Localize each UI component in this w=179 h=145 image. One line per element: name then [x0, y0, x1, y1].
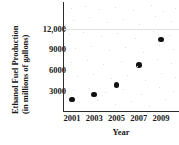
scan-noise-dot — [87, 60, 88, 61]
scan-noise-dot — [165, 99, 166, 100]
scan-noise-dot — [133, 10, 134, 11]
x-tick-label: 2001 — [64, 114, 81, 123]
scan-noise-dot — [125, 47, 126, 48]
scan-noise-dot — [101, 36, 102, 37]
scan-noise-dot — [109, 50, 110, 51]
scan-noise-dot — [75, 48, 76, 49]
scan-noise-dot — [89, 17, 90, 18]
scan-noise-dot — [69, 34, 70, 35]
scan-noise-dot — [89, 88, 90, 89]
scan-noise-dot — [73, 90, 74, 91]
scan-noise-dot — [121, 61, 122, 62]
scan-noise-dot — [173, 91, 174, 92]
scan-noise-dot — [149, 106, 150, 107]
scan-noise-dot — [175, 8, 176, 9]
scan-noise-dot — [137, 66, 138, 67]
x-tick-label: 2005 — [108, 114, 125, 123]
scan-noise-dot — [145, 80, 146, 81]
scan-noise-dot — [123, 89, 124, 90]
scan-noise-dot — [169, 35, 170, 36]
scan-noise-dot — [103, 64, 104, 65]
y-axis-title: Ethanol Fuel Production (in millions of … — [0, 0, 28, 120]
scan-noise-dot — [153, 31, 154, 32]
x-axis-line — [63, 111, 179, 112]
x-axis-tick-labels: 20012003200520072009 — [58, 114, 179, 126]
scan-noise-dot — [141, 94, 142, 95]
scan-noise-dot — [71, 8, 72, 9]
scan-noise-dot — [171, 21, 172, 22]
scan-noise-dot — [171, 63, 172, 64]
scan-noise-dot — [71, 62, 72, 63]
scan-noise-dot — [157, 59, 158, 60]
scan-noise-dot — [155, 16, 156, 17]
scan-noise-dot — [83, 32, 84, 33]
scan-noise-dot — [163, 11, 164, 12]
scan-noise-dot — [135, 38, 136, 39]
scan-noise-dot — [175, 77, 176, 78]
data-point — [114, 82, 120, 88]
scan-noise-dot — [79, 102, 80, 103]
scan-noise-dot — [91, 46, 92, 47]
scan-noise-dot — [131, 101, 132, 102]
scan-noise-dot — [85, 6, 86, 7]
ethanol-fuel-production-scatter-chart: Ethanol Fuel Production (in millions of … — [0, 0, 179, 145]
plot-area — [63, 2, 179, 112]
data-point — [69, 97, 75, 103]
scan-noise-dot — [99, 9, 100, 10]
scan-noise-dot — [159, 87, 160, 88]
scan-noise-dot — [127, 75, 128, 76]
scan-noise-dot — [105, 92, 106, 93]
y-axis-line — [63, 2, 64, 112]
scan-noise-dot — [173, 49, 174, 50]
data-point — [91, 92, 97, 98]
scan-noise-dot — [107, 22, 108, 23]
x-tick-label: 2007 — [130, 114, 147, 123]
scan-noise-dot — [77, 76, 78, 77]
x-axis-title: Year — [63, 128, 179, 137]
scan-noise-dot — [123, 19, 124, 20]
scan-noise-dot — [151, 5, 152, 6]
scan-noise-dot — [115, 104, 116, 105]
scan-noise-dot — [161, 73, 162, 74]
scan-noise-dot — [115, 7, 116, 8]
scan-noise-dot — [73, 20, 74, 21]
scan-noise-dot — [143, 52, 144, 53]
x-tick-label: 2009 — [153, 114, 170, 123]
scan-artifact-line — [64, 29, 179, 30]
x-tick-label: 2003 — [86, 114, 103, 123]
scan-noise-dot — [111, 78, 112, 79]
scan-noise-dot — [139, 24, 140, 25]
scan-noise-dot — [93, 74, 94, 75]
scan-noise-dot — [117, 33, 118, 34]
scan-noise-dot — [159, 45, 160, 46]
y-axis-title-line-2: (in millions of gallons) — [21, 35, 30, 114]
scan-noise-dot — [97, 100, 98, 101]
data-point — [158, 37, 164, 43]
y-axis-title-line-1: Ethanol Fuel Production — [11, 26, 20, 114]
